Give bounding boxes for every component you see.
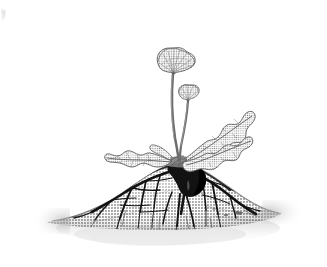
- illustration-canvas: Grayscale halftone botanical drawing of …: [0, 0, 327, 267]
- plant-illustration: [0, 0, 327, 267]
